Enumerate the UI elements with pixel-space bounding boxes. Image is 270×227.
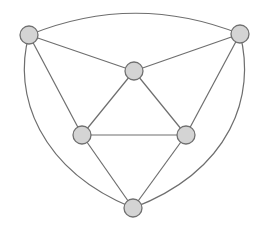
edge-top-right-inner-top — [134, 34, 240, 71]
edge-top-left-top-right — [29, 13, 240, 35]
edges-group — [24, 13, 244, 208]
graph-diagram — [0, 0, 270, 227]
edge-top-left-bottom — [24, 35, 133, 208]
edge-top-right-bottom — [133, 34, 245, 208]
edge-top-right-mid-right — [186, 34, 240, 135]
nodes-group — [20, 25, 249, 217]
node-inner-top — [125, 62, 143, 80]
node-mid-right — [177, 126, 195, 144]
edge-mid-right-bottom — [133, 135, 186, 208]
node-bottom — [124, 199, 142, 217]
edge-inner-top-mid-right — [134, 71, 186, 135]
edge-inner-top-mid-left — [82, 71, 134, 135]
edge-mid-left-bottom — [82, 135, 133, 208]
node-mid-left — [73, 126, 91, 144]
node-top-left — [20, 26, 38, 44]
node-top-right — [231, 25, 249, 43]
